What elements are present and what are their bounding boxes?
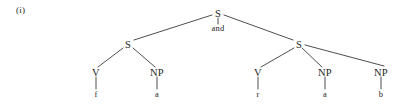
tree-edge-root-to-s_left (134, 15, 212, 40)
tree-edge-s_right-to-np_right (305, 45, 384, 66)
tree-edge-s_left-to-np_left (133, 48, 155, 67)
tree-node-leaf_a1: a (155, 89, 159, 99)
tree-node-root: S (215, 8, 221, 19)
tree-node-np_mid: NP (318, 67, 332, 78)
tree-node-np_left: NP (150, 67, 164, 78)
tree-edge-root-to-s_right (224, 15, 293, 40)
tree-node-conj: and (212, 23, 225, 33)
tree-node-leaf_b: b (379, 89, 383, 99)
tree-edge-s_left-to-v_left (98, 48, 123, 67)
tree-node-v_right: V (254, 67, 262, 78)
tree-edge-group (96, 15, 384, 89)
tree-edges-layer (0, 0, 404, 105)
tree-node-s_right: S (296, 39, 302, 50)
tree-node-s_left: S (125, 39, 131, 50)
tree-edge-s_right-to-np_mid (302, 48, 322, 67)
tree-node-np_right: NP (374, 67, 388, 78)
tree-node-leaf_a2: a (323, 89, 327, 99)
syntax-tree-figure: (i) SandSSVNPVNPNPfarab (0, 0, 404, 105)
tree-node-leaf_f: f (94, 89, 97, 99)
tree-edge-s_right-to-v_right (261, 48, 294, 67)
tree-node-v_left: V (92, 67, 100, 78)
tree-node-leaf_r: r (256, 89, 259, 99)
example-number-label: (i) (16, 5, 25, 15)
